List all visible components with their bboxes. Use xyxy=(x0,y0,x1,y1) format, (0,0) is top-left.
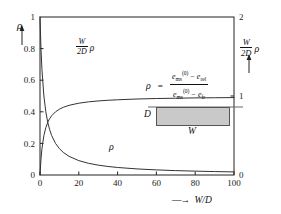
slab-height-label: D xyxy=(144,110,151,120)
left-axis-label: ρ xyxy=(17,20,22,31)
x-axis-text: W/D xyxy=(194,195,211,205)
y-tick-label-left: 0 xyxy=(31,170,36,180)
formula-numerator: ems(0)−erel xyxy=(170,68,208,84)
formula-den-sub1: ms xyxy=(177,95,183,101)
x-tick-label: 80 xyxy=(191,178,201,188)
curve-label-rho: ρ xyxy=(90,43,95,53)
curve-label-rho: ρ xyxy=(109,142,114,152)
formula-lhs: ρ xyxy=(146,80,151,91)
x-tick-label: 60 xyxy=(152,178,162,188)
x-axis-label: —→ W/D xyxy=(172,196,212,206)
curve-label-denominator: 2D xyxy=(76,46,88,56)
formula-den-minus: − xyxy=(191,90,196,99)
curve-label-fraction: W 2D xyxy=(76,38,88,56)
right-axis-label: W 2D ρ xyxy=(240,38,259,58)
curve-label-w2d-rho: W 2D ρ xyxy=(76,38,94,56)
formula-num-minus: − xyxy=(190,72,195,81)
right-axis-rho: ρ xyxy=(254,43,259,54)
y-tick-label-left: 0.8 xyxy=(24,44,36,54)
x-tick-label: 0 xyxy=(38,178,43,188)
formula-den-sub2: fr xyxy=(201,95,205,101)
x-tick-label: 40 xyxy=(113,178,123,188)
right-axis-numerator: W xyxy=(240,38,252,47)
right-axis-fraction: W 2D xyxy=(240,38,252,58)
chart-figure: 02040608010000.20.40.60.81012 ρ W 2D ρ —… xyxy=(0,0,281,214)
y-tick-label-right: 2 xyxy=(239,12,244,22)
curve-label-numerator: W xyxy=(76,38,88,46)
slab-width-label: W xyxy=(188,127,196,137)
formula-den-sup1: (0) xyxy=(183,88,189,94)
formula-block: ρ = ems(0)−erel ems(0)−efr xyxy=(146,68,208,103)
chart-svg: 02040608010000.20.40.60.81012 xyxy=(0,0,281,214)
y-tick-label-left: 1 xyxy=(31,12,36,22)
formula-equals: = xyxy=(158,81,163,91)
formula-num-sub1: ms xyxy=(175,76,181,82)
x-axis-arrow: —→ xyxy=(172,195,189,205)
formula-fraction: ems(0)−erel ems(0)−efr xyxy=(170,68,208,103)
y-tick-label-left: 0.2 xyxy=(24,139,35,149)
right-axis-denominator: 2D xyxy=(240,47,252,58)
formula-denominator: ems(0)−efr xyxy=(170,84,208,102)
slab-rectangle xyxy=(156,107,230,126)
formula-num-sub2: rel xyxy=(200,76,206,82)
y-tick-label-left: 0.4 xyxy=(24,107,36,117)
x-tick-label: 20 xyxy=(74,178,84,188)
formula-num-sup1: (0) xyxy=(182,70,188,76)
y-tick-label-right: 1 xyxy=(239,91,244,101)
y-tick-label-right: 0 xyxy=(239,170,244,180)
y-tick-label-left: 0.6 xyxy=(24,75,36,85)
